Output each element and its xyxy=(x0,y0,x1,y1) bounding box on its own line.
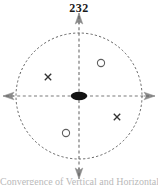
circle-marker-upper-right xyxy=(97,59,104,66)
arrowhead-right-icon xyxy=(144,92,155,100)
cross-marker-upper-left xyxy=(45,74,51,80)
arrowhead-top-icon xyxy=(75,13,83,24)
caption-strip: Convergence of Vertical and Horizontal xyxy=(0,177,158,185)
center-ellipse xyxy=(71,92,87,100)
circle-marker-lower-left xyxy=(62,129,69,136)
arrowhead-left-icon xyxy=(3,92,14,100)
diagram-canvas xyxy=(0,0,158,185)
figure-container: 232 xyxy=(0,0,158,185)
cross-marker-lower-right xyxy=(114,114,120,120)
figure-caption: Convergence of Vertical and Horizontal xyxy=(0,177,158,185)
